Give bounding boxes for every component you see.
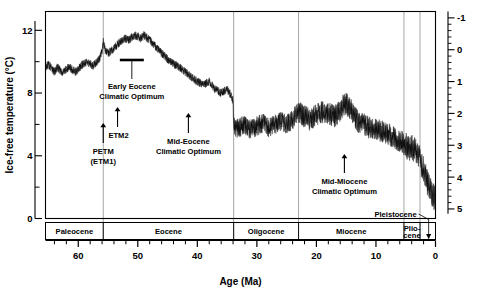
plot-frame [46, 12, 436, 219]
right-tick-label: 2 [457, 108, 462, 119]
right-tick-label: 0 [457, 44, 462, 55]
annotation-petm-line2: (ETM1) [91, 157, 117, 166]
left-tick-label: 8 [27, 87, 32, 98]
left-tick-label: 4 [27, 150, 33, 161]
epoch-label-miocene: Miocene [336, 227, 366, 236]
epoch-band [46, 223, 436, 240]
right-tick-label: 4 [457, 172, 463, 183]
epoch-label-eocene: Eocene [155, 227, 182, 236]
epoch-label-pliocene-2: cene [403, 231, 420, 240]
chart-svg: 04812Ice-free temperature (°C)-1012345Pa… [0, 0, 483, 290]
left-tick-label: 0 [27, 213, 32, 224]
x-tick-label: 20 [311, 250, 322, 261]
x-tick-label: 30 [252, 250, 263, 261]
left-tick-label: 12 [22, 25, 33, 36]
x-tick-label: 40 [192, 250, 203, 261]
epoch-label-oligocene: Oligocene [248, 227, 285, 236]
left-axis-title: Ice-free temperature (°C) [4, 57, 15, 174]
x-tick-label: 50 [133, 250, 144, 261]
right-tick-label: 1 [457, 76, 463, 87]
epoch-label-paleocene: Paleocene [56, 227, 94, 236]
meco-arrow-head [186, 113, 192, 117]
annotation-eeco-line1: Early Eocene [108, 82, 156, 91]
right-tick-label: 5 [457, 203, 463, 214]
data-curve [46, 31, 436, 210]
annotation-mmco-line2: Climatic Optimum [312, 187, 377, 196]
x-tick-label: 10 [371, 250, 382, 261]
x-tick-label: 60 [73, 250, 84, 261]
mmco-arrow-head [342, 154, 348, 158]
annotation-petm-line1: PETM [93, 147, 114, 156]
annotation-eeco-line2: Climatic Optimum [99, 92, 164, 101]
annotation-meco-line1: Mid-Eocene [167, 137, 210, 146]
x-tick-label: 0 [433, 250, 438, 261]
bottom-axis-title: Age (Ma) [219, 276, 261, 287]
etm2-arrow-head [115, 107, 121, 111]
annotation-meco-line2: Climatic Optimum [156, 147, 221, 156]
annotation-etm2: ETM2 [108, 131, 128, 140]
right-tick-label: -1 [457, 12, 466, 23]
annotation-mmco-line1: Mid-Miocene [321, 177, 367, 186]
cenozoic-climate-chart: 04812Ice-free temperature (°C)-1012345Pa… [0, 0, 483, 290]
petm-arrow-head [100, 123, 106, 127]
pleistocene-arrowhead [426, 234, 431, 239]
epoch-label-pleistocene: Pleistocene [374, 210, 416, 219]
right-tick-label: 3 [457, 140, 462, 151]
